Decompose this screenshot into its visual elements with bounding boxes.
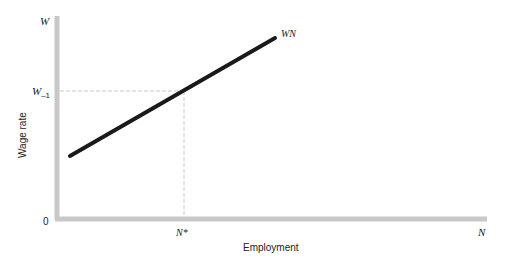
y-axis-title: Wage rate (17, 112, 28, 158)
n-star-label: N* (175, 227, 188, 238)
wn-curve-label: WN (281, 28, 297, 39)
x-axis-title: Employment (243, 242, 299, 253)
w-minus-1-label: W–1 (32, 85, 51, 100)
wage-employment-chart: W W–1 Wage rate 0 N* Employment N WN (0, 0, 505, 261)
origin-label: 0 (43, 216, 49, 227)
w-axis-label: W (40, 15, 50, 27)
n-axis-label: N (477, 226, 486, 238)
wn-curve (70, 38, 275, 156)
